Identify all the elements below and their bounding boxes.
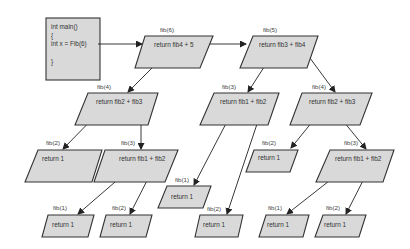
node-fib3-mid: fib(3) return fib1 + fib2	[200, 83, 279, 125]
node-text: return fib2 + fib3	[309, 98, 356, 105]
node-fib1-bottom-left: fib(1) return 1	[42, 204, 94, 237]
node-label: fib(2)	[207, 205, 221, 212]
node-text: return 1	[267, 221, 289, 228]
node-label: fib(5)	[263, 26, 277, 33]
node-fib3-right: fib(3) return fib1 + fib2	[316, 139, 394, 182]
node-text: return fib3 + fib4	[259, 41, 306, 48]
node-text: return 1	[110, 221, 132, 228]
main-line-1: int main()	[51, 23, 78, 31]
node-label: fib(4)	[97, 83, 111, 90]
node-label: fib(2)	[112, 204, 126, 211]
node-label: fib(3)	[222, 83, 236, 90]
node-text: return 1	[52, 221, 74, 228]
node-label: fib(2)	[262, 139, 276, 146]
fibonacci-call-tree-diagram: int main() { int x = Fib(6) } fib(6) ret…	[0, 0, 410, 249]
node-fib5: fib(5) return fib3 + fib4	[240, 26, 318, 68]
node-text: return 1	[324, 221, 346, 228]
node-text: return fib1 + fib2	[335, 155, 382, 162]
node-text: return 1	[258, 154, 280, 161]
node-fib4-left: fib(4) return fib2 + fib3	[75, 83, 158, 125]
node-fib2-bottom-mid: fib(2) return 1	[195, 205, 243, 237]
node-label: fib(4)	[312, 83, 326, 90]
node-label: fib(1)	[175, 176, 189, 183]
node-text: return 1	[42, 155, 64, 162]
node-fib3-left: fib(3) return fib1 + fib2	[94, 139, 178, 182]
node-fib6: fib(6) return fib4 + 5	[135, 26, 213, 68]
node-label: fib(6)	[160, 26, 174, 33]
node-fib2-right: fib(2) return 1	[246, 139, 298, 172]
node-label: fib(3)	[121, 139, 135, 146]
node-text: return 1	[203, 221, 225, 228]
node-fib1-bottom-right: fib(1) return 1	[259, 204, 309, 237]
main-line-3: int x = Fib(6)	[51, 40, 87, 48]
node-fib4-right: fib(4) return fib2 + fib3	[290, 83, 372, 125]
call-edges	[63, 44, 372, 214]
node-fib2-bottom-right: fib(2) return 1	[315, 204, 366, 237]
node-fib2-bottom-left: fib(2) return 1	[100, 204, 152, 237]
node-text: return fib2 + fib3	[96, 98, 143, 105]
main-function-box: int main() { int x = Fib(6) }	[46, 18, 100, 80]
node-label: fib(1)	[53, 204, 67, 211]
node-text: return fib1 + fib2	[119, 155, 166, 162]
node-text: return fib4 + 5	[154, 41, 194, 48]
node-label: fib(1)	[268, 204, 282, 211]
node-text: return 1	[171, 193, 193, 200]
node-label: fib(3)	[344, 139, 358, 146]
node-label: fib(2)	[326, 204, 340, 211]
node-text: return fib1 + fib2	[220, 98, 267, 105]
node-label: fib(2)	[46, 139, 60, 146]
node-fib2-left: fib(2) return 1	[25, 139, 102, 182]
